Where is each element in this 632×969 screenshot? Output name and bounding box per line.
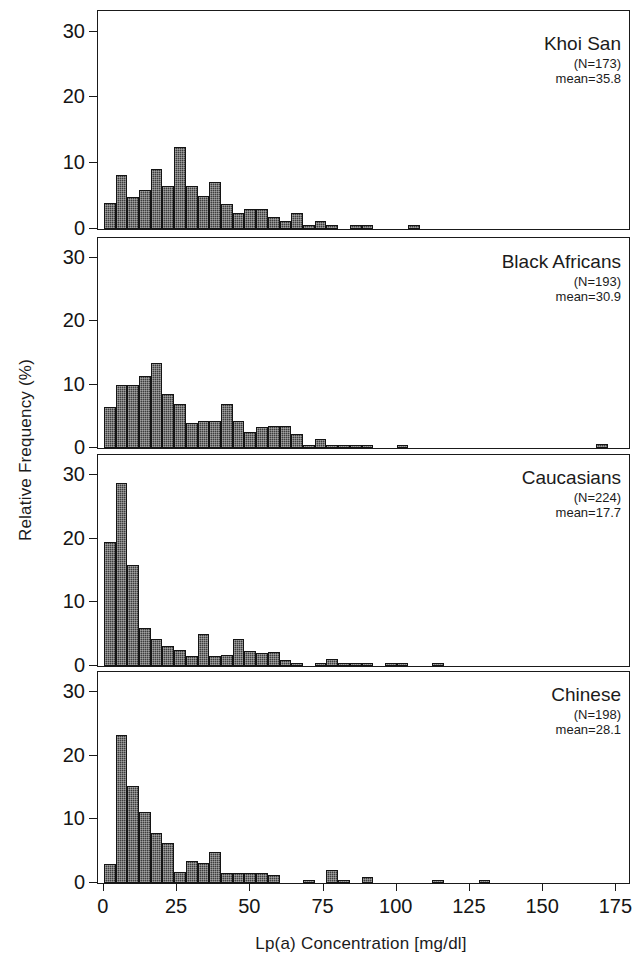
y-tick [89,474,98,475]
histogram-bar [244,873,256,883]
histogram-bar [397,663,409,666]
histogram-bar [256,653,268,666]
panel-title: Caucasians [522,467,621,488]
histogram-bar [162,186,174,229]
histogram-bar [233,873,245,883]
histogram-bar [198,863,210,883]
histogram-bar [186,861,198,883]
x-tick-label: 50 [238,895,260,918]
histogram-figure: Relative Frequency (%) Khoi San (N=173) … [0,0,632,969]
y-tick [89,755,98,756]
panel-mean: mean=35.8 [544,72,621,87]
histogram-bar [162,843,174,883]
histogram-bar [139,190,151,229]
histogram-bar [268,426,280,448]
histogram-bar [326,870,338,883]
histogram-bar [116,385,128,448]
y-tick [89,538,98,539]
histogram-bar [338,445,350,448]
histogram-bar [162,394,174,448]
histogram-bar [233,421,245,448]
y-axis-label: Relative Frequency (%) [16,320,36,580]
y-tick [89,601,98,602]
histogram-bar [221,404,233,448]
histogram-bar [104,864,116,883]
histogram-bar [280,660,292,666]
histogram-bar [116,735,128,883]
histogram-bar [303,225,315,229]
histogram-bar [244,651,256,666]
histogram-bar [209,182,221,229]
histogram-bar [326,225,338,229]
panel-n: (N=198) [551,708,621,723]
histogram-bar [362,663,374,666]
histogram-bar [221,873,233,883]
x-tick [615,884,616,891]
panel-mean: mean=30.9 [502,290,621,305]
panel-black-africans: Black Africans (N=193) mean=30.9 0102030 [97,237,630,449]
panel-n: (N=193) [502,275,621,290]
histogram-bar [350,225,362,229]
y-tick [89,228,98,229]
histogram-bar [104,203,116,229]
x-tick-label: 0 [97,895,108,918]
histogram-bar [303,880,315,883]
y-tick-label: 0 [74,436,85,459]
histogram-bar [233,213,245,229]
panel-caption-khoi-san: Khoi San (N=173) mean=35.8 [544,33,621,86]
y-tick [89,447,98,448]
histogram-bar [326,445,338,448]
histogram-bar [116,175,128,229]
x-tick [396,884,397,891]
y-tick-label: 0 [74,654,85,677]
histogram-bar [104,542,116,666]
y-tick-label: 10 [63,807,85,830]
histogram-bar [198,634,210,666]
histogram-bar [221,204,233,229]
histogram-bar [268,217,280,229]
y-tick [89,882,98,883]
histogram-bar [256,873,268,883]
x-tick [469,884,470,891]
histogram-bar [127,786,139,883]
plot-area-chinese [98,672,629,883]
x-tick [249,884,250,891]
histogram-bar [151,169,163,229]
histogram-bar [315,439,327,449]
panel-caucasians: Caucasians (N=224) mean=17.7 0102030 [97,454,630,667]
histogram-bar [268,875,280,883]
histogram-bar [174,650,186,666]
histogram-bar [151,639,163,666]
x-tick [542,884,543,891]
panel-caption-black-africans: Black Africans (N=193) mean=30.9 [502,251,621,304]
histogram-bar [350,445,362,448]
y-tick-label: 20 [63,309,85,332]
y-tick [89,665,98,666]
x-tick-label: 25 [165,895,187,918]
y-tick-label: 0 [74,871,85,894]
histogram-bar [233,639,245,666]
histogram-bar [174,147,186,229]
histogram-bar [209,421,221,448]
histogram-bar [151,833,163,883]
histogram-bar [198,421,210,448]
histogram-bar [479,880,491,883]
histogram-bar [362,877,374,883]
histogram-bar [303,445,315,448]
histogram-bar [432,880,444,883]
histogram-bar [280,426,292,448]
x-axis-label: Lp(a) Concentration [mg/dl] [97,934,625,954]
histogram-bar [186,186,198,229]
histogram-bar [186,423,198,448]
histogram-bar [174,404,186,448]
y-tick-label: 10 [63,590,85,613]
panel-n: (N=224) [522,491,621,506]
y-tick [89,31,98,32]
x-tick-label: 150 [525,895,558,918]
y-tick [89,691,98,692]
panel-mean: mean=28.1 [551,723,621,738]
histogram-bar [596,444,608,448]
panel-title: Chinese [551,684,621,705]
histogram-bar [244,209,256,229]
histogram-bar [338,663,350,666]
